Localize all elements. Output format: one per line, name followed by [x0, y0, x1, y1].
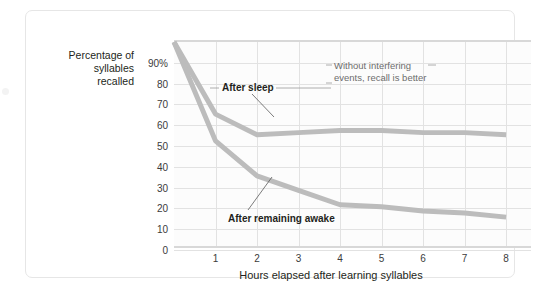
y-axis-title: Percentage of syllables recalled	[38, 49, 134, 88]
annotation-after-sleep: After sleep	[222, 82, 274, 94]
x-tick-label: 6	[420, 253, 426, 264]
y-tick-label: 30	[157, 182, 168, 193]
gridline-horizontal	[174, 250, 531, 251]
y-tick-label: 90%	[148, 57, 168, 68]
y-tick-label: 40	[157, 161, 168, 172]
figure-card: Percentage of syllables recalled 0102030…	[25, 10, 515, 278]
page-edge-mark	[2, 88, 9, 95]
x-tick-label: 3	[296, 253, 302, 264]
y-tick-label: 10	[157, 224, 168, 235]
y-tick-label: 50	[157, 141, 168, 152]
x-tick-label: 1	[213, 253, 219, 264]
x-tick-label: 2	[254, 253, 260, 264]
x-axis-title: Hours elapsed after learning syllables	[136, 269, 526, 281]
annotation-without-interfering-events: Without interfering events, recall is be…	[334, 60, 439, 83]
x-tick-label: 7	[462, 253, 468, 264]
x-tick-label: 5	[379, 253, 385, 264]
x-tick-label: 8	[503, 253, 509, 264]
y-tick-label: 20	[157, 203, 168, 214]
y-tick-label: 80	[157, 78, 168, 89]
y-tick-label: 0	[162, 245, 168, 256]
y-tick-label: 60	[157, 120, 168, 131]
annotation-after-remaining-awake: After remaining awake	[228, 213, 335, 225]
x-tick-label: 4	[337, 253, 343, 264]
y-tick-label: 70	[157, 99, 168, 110]
